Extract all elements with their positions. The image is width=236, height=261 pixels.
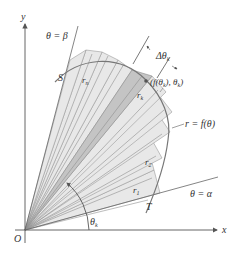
delta-arrow-2	[172, 66, 177, 69]
alpha-label: θ = α	[190, 188, 213, 199]
theta-k-label: θk	[90, 216, 98, 228]
curve-label: r = f(θ)	[185, 118, 216, 130]
beta-label: θ = β	[46, 30, 68, 41]
curve-end-S: S	[58, 72, 63, 83]
delta-tick-left	[133, 36, 149, 64]
delta-arrow-1	[147, 46, 150, 50]
x-axis-label: x	[221, 224, 227, 235]
polar-area-diagram: y x O θ = β θ = α r = f(θ) T S rn rk r2 …	[0, 0, 236, 261]
origin-label: O	[14, 233, 21, 244]
diagram-canvas: y x O θ = β θ = α r = f(θ) T S rn rk r2 …	[0, 0, 236, 261]
point-label: (f(θk), θk)	[150, 77, 183, 88]
y-axis-label: y	[20, 11, 26, 22]
point-f-theta-k	[144, 79, 148, 83]
delta-theta-label: Δθk	[155, 50, 170, 62]
curve-label-leader	[172, 124, 184, 128]
curve-start-T: T	[146, 201, 153, 212]
